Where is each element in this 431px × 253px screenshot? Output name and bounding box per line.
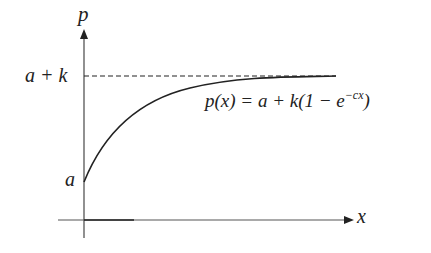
formula-exponent: −cx (345, 88, 364, 102)
asymptote-label: a + k (25, 64, 67, 87)
diagram-canvas: p a + k a x p(x) = a + k(1 − e−cx) (0, 0, 431, 253)
x-axis-label: x (357, 205, 366, 228)
formula-main: p(x) = a + k(1 − e (205, 90, 345, 111)
x-axis-arrow-icon (344, 216, 354, 224)
formula-close: ) (364, 90, 370, 111)
diagram-svg (0, 0, 431, 253)
intercept-label: a (65, 168, 75, 191)
formula-label: p(x) = a + k(1 − e−cx) (205, 88, 370, 112)
y-axis-arrow-icon (80, 29, 88, 39)
y-axis-label: p (78, 2, 89, 27)
